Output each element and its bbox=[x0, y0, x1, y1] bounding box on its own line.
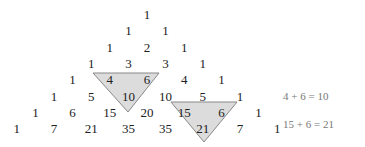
cell-r5-c5: 1 bbox=[237, 89, 244, 102]
cell-r6-c2: 15 bbox=[103, 105, 116, 118]
cell-r7-c4: 35 bbox=[159, 122, 172, 135]
cell-r7-c0: 1 bbox=[14, 122, 21, 135]
cell-r2-c2: 1 bbox=[181, 40, 188, 53]
cell-r4-c1: 4 bbox=[107, 73, 114, 86]
cell-r4-c2: 6 bbox=[144, 73, 151, 86]
cell-r2-c0: 1 bbox=[107, 40, 114, 53]
cell-r6-c1: 6 bbox=[69, 105, 76, 118]
cell-r3-c3: 1 bbox=[200, 56, 207, 69]
cell-r4-c0: 1 bbox=[69, 73, 76, 86]
cell-r3-c2: 3 bbox=[162, 56, 169, 69]
cell-r4-c4: 1 bbox=[218, 73, 225, 86]
cell-r6-c5: 6 bbox=[218, 105, 225, 118]
cell-r4-c3: 4 bbox=[181, 73, 188, 86]
cell-r7-c6: 7 bbox=[237, 122, 244, 135]
cell-r5-c2: 10 bbox=[122, 89, 135, 102]
cell-r6-c6: 1 bbox=[255, 105, 262, 118]
cell-r7-c3: 35 bbox=[122, 122, 135, 135]
cell-r6-c3: 20 bbox=[141, 105, 154, 118]
cell-r5-c3: 10 bbox=[159, 89, 172, 102]
cell-r7-c1: 7 bbox=[51, 122, 58, 135]
cell-r2-c1: 2 bbox=[144, 40, 151, 53]
cell-r5-c0: 1 bbox=[51, 89, 58, 102]
cell-r6-c4: 15 bbox=[178, 105, 191, 118]
cell-r7-c5: 21 bbox=[196, 122, 209, 135]
equation-1: 4 + 6 = 10 bbox=[283, 90, 328, 102]
cell-r7-c2: 21 bbox=[85, 122, 98, 135]
cell-r3-c0: 1 bbox=[88, 56, 95, 69]
cell-r6-c0: 1 bbox=[32, 105, 39, 118]
cell-r3-c1: 3 bbox=[125, 56, 132, 69]
equation-2: 15 + 6 = 21 bbox=[283, 118, 334, 130]
cell-r0-c0: 1 bbox=[144, 8, 151, 21]
cell-r7-c7: 1 bbox=[274, 122, 281, 135]
cell-r5-c4: 5 bbox=[200, 89, 207, 102]
cell-r1-c0: 1 bbox=[125, 24, 132, 37]
cell-r5-c1: 5 bbox=[88, 89, 95, 102]
cell-r1-c1: 1 bbox=[162, 24, 169, 37]
